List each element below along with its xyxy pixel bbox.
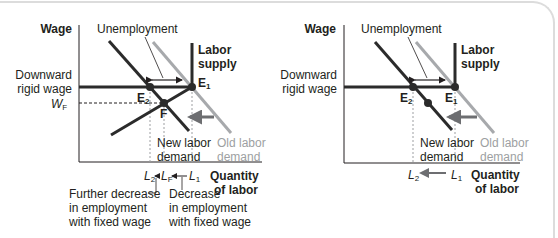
point-e1 [451,83,459,91]
left-e1-label: E1 [198,76,210,94]
left-unemployment-label: Unemployment [97,22,178,36]
left-supply-label-2: supply [198,57,237,71]
left-supply-label-1: Labor [198,43,231,57]
right-l1-label: L1 [451,168,462,186]
right-new-demand-label-2: demand [420,150,463,164]
right-l2-label: L2 [408,168,419,186]
decrease-note-2: in employment [169,201,247,215]
left-old-demand-label-1: Old labor [217,136,266,150]
point-mid [424,99,432,107]
left-rigid-wage-label-1: Downward [0,68,72,82]
right-rigid-wage-label-1: Downward [264,68,337,82]
left-f-label: F [160,107,167,121]
right-old-demand-label-2: demand [480,150,523,164]
decrease-note-1: Decrease [169,187,220,201]
left-wf-label: WF [51,97,67,115]
point-e1 [188,83,196,91]
left-chart [79,25,262,193]
left-new-demand-label-2: demand [157,150,200,164]
right-e2-label: E2 [400,91,412,109]
further-decrease-note-3: with fixed wage [69,215,151,229]
left-l1-label: L1 [189,169,200,187]
right-new-demand-label-1: New labor [420,136,474,150]
left-rigid-wage-label-2: rigid wage [0,82,72,96]
further-decrease-note-2: in employment [69,201,147,215]
labor-supply-sloped [111,87,192,135]
right-e1-label: E1 [445,91,457,109]
left-y-axis-label: Wage [28,22,72,36]
right-old-demand-label-1: Old labor [480,136,529,150]
right-supply-label-2: supply [461,57,500,71]
further-decrease-note-1: Further decrease [69,187,160,201]
left-new-demand-label-1: New labor [157,136,211,150]
right-x-axis-label-1: Quantity [471,168,519,182]
left-x-axis-label-1: Quantity [210,169,258,183]
left-old-demand-label-2: demand [217,150,260,164]
right-x-axis-label-2: of labor [471,182,519,196]
right-unemployment-label: Unemployment [361,22,442,36]
left-l2-label: L2 [144,169,155,187]
decrease-note-3: with fixed wage [169,215,251,229]
point-e2 [146,83,154,91]
point-e2 [409,83,417,91]
left-lf-label: LF [161,169,173,187]
right-y-axis-label: Wage [292,22,336,36]
point-f [160,99,168,107]
right-rigid-wage-label-2: rigid wage [264,82,337,96]
right-supply-label-1: Labor [461,43,494,57]
left-e2-label: E2 [137,91,149,109]
